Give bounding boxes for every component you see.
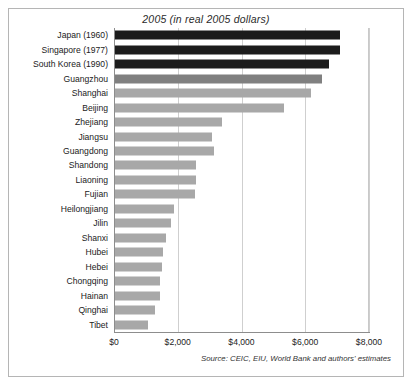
category-label: Heilongjiang [61, 204, 108, 214]
category-label: Jiangsu [78, 132, 108, 142]
bar-row: Tibet [9, 317, 405, 331]
bar [115, 277, 160, 286]
category-label: Qinghai [78, 305, 108, 315]
bar [115, 118, 222, 127]
category-label: Liaoning [76, 175, 109, 185]
x-tick-label: $0 [109, 337, 119, 347]
bar-row: Guangdong [9, 144, 405, 158]
bar [115, 45, 340, 54]
x-tick-label: $8,000 [356, 337, 382, 347]
bar [115, 60, 329, 69]
bar-row: Zhejiang [9, 115, 405, 129]
bar-row: Shandong [9, 158, 405, 172]
bar [115, 161, 196, 170]
x-tick-label: $4,000 [228, 337, 254, 347]
x-axis-line [114, 332, 370, 333]
bar-row: Beijing [9, 100, 405, 114]
category-label: Shanxi [82, 233, 108, 243]
bar-row: Guangzhou [9, 71, 405, 85]
bar [115, 89, 311, 98]
bar [115, 31, 340, 40]
bar [115, 190, 195, 199]
bar [115, 291, 160, 300]
bar [115, 103, 284, 112]
bar-row: Hubei [9, 245, 405, 259]
bar [115, 248, 163, 257]
bar [115, 320, 148, 329]
category-label: Hebei [86, 262, 108, 272]
bar-row: Jilin [9, 216, 405, 230]
bar [115, 262, 162, 271]
bar [115, 132, 212, 141]
bar-row: Shanxi [9, 231, 405, 245]
bar-row: Hebei [9, 260, 405, 274]
bar [115, 233, 166, 242]
bar [115, 306, 155, 315]
x-tick-label: $6,000 [292, 337, 318, 347]
bar-row: Heilongjiang [9, 202, 405, 216]
bar-row: South Korea (1990) [9, 57, 405, 71]
bar-row: Jiangsu [9, 129, 405, 143]
category-label: South Korea (1990) [33, 59, 108, 69]
bar-row: Fujian [9, 187, 405, 201]
bar [115, 74, 322, 83]
category-label: Shandong [69, 160, 108, 170]
bar-row: Qinghai [9, 303, 405, 317]
category-label: Japan (1960) [57, 30, 108, 40]
bar-row: Hainan [9, 288, 405, 302]
category-label: Hubei [86, 247, 108, 257]
bar [115, 219, 171, 228]
bar [115, 204, 174, 213]
category-label: Fujian [85, 189, 108, 199]
source-note: Source: CEIC, EIU, World Bank and author… [201, 354, 391, 363]
category-label: Tibet [89, 320, 108, 330]
x-tick-label: $2,000 [165, 337, 191, 347]
bar-row: Japan (1960) [9, 28, 405, 42]
category-label: Shanghai [72, 88, 108, 98]
category-label: Zhejiang [75, 117, 108, 127]
bar [115, 146, 214, 155]
category-label: Hainan [81, 291, 108, 301]
bar-row: Chongqing [9, 274, 405, 288]
bar-row: Shanghai [9, 86, 405, 100]
bar-row: Liaoning [9, 173, 405, 187]
bar-rows: Japan (1960)Singapore (1977)South Korea … [9, 28, 405, 332]
category-label: Guangzhou [64, 74, 108, 84]
category-label: Guangdong [63, 146, 108, 156]
chart-title: 2005 (in real 2005 dollars) [9, 13, 403, 25]
category-label: Singapore (1977) [42, 45, 108, 55]
bar [115, 175, 196, 184]
category-label: Chongqing [66, 276, 108, 286]
category-label: Beijing [82, 103, 108, 113]
chart-figure: 2005 (in real 2005 dollars) Japan (1960)… [8, 8, 404, 377]
bar-row: Singapore (1977) [9, 42, 405, 56]
category-label: Jilin [93, 218, 108, 228]
